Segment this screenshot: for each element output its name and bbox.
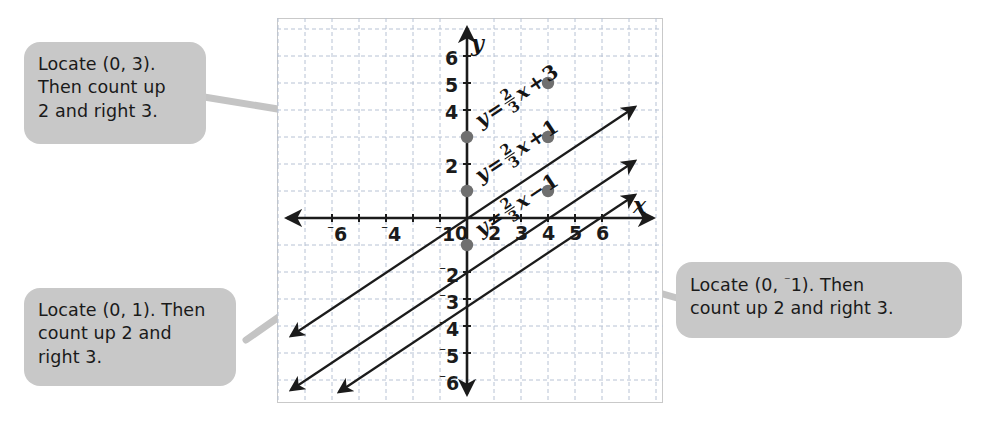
callout-right-negative-sign: ⁻ xyxy=(784,273,791,288)
y-tick-5: 5 xyxy=(445,76,458,95)
x-axis-label: x xyxy=(633,194,646,216)
callout-right-line1: Locate (0, ⁻1). Then xyxy=(690,273,948,297)
callout-locate-0-neg1: Locate (0, ⁻1). Then count up 2 and righ… xyxy=(676,262,962,338)
x-tick-5: 5 xyxy=(569,224,582,243)
callout-top-left-line2: Then count up xyxy=(38,76,192,99)
callout-right-line1-b: 1). Then xyxy=(791,275,865,295)
y-tick-neg6: ⁻6 xyxy=(439,373,459,393)
graph-lines xyxy=(277,18,663,403)
y-tick-neg3: ⁻3 xyxy=(439,292,459,312)
callout-right-line2: count up 2 and right 3. xyxy=(690,297,948,320)
point-0-1 xyxy=(461,185,473,197)
x-tick-4: 4 xyxy=(542,224,555,243)
y-tick-neg4: ⁻4 xyxy=(439,319,459,339)
x-tick-neg4: ⁻4 xyxy=(381,224,401,244)
callout-locate-0-3: Locate (0, 3). Then count up 2 and right… xyxy=(24,42,206,144)
y-tick-neg5: ⁻5 xyxy=(439,346,459,366)
x-tick-neg6: ⁻6 xyxy=(327,224,347,244)
x-tick-6: 6 xyxy=(596,224,609,243)
callout-right-line1-a: Locate (0, xyxy=(690,275,784,295)
callout-top-left-line3: 2 and right 3. xyxy=(38,100,192,123)
y-tick-2: 2 xyxy=(445,157,458,176)
x-tick-neg1: ⁻1 xyxy=(435,224,455,244)
y-tick-neg2: ⁻2 xyxy=(439,265,459,285)
x-tick-0: 0 xyxy=(455,224,468,243)
coordinate-plane: y x 6 5 4 2 ⁻2 ⁻3 ⁻4 ⁻5 ⁻6 ⁻6 ⁻4 ⁻1 0 2 … xyxy=(277,18,663,403)
callout-top-left-line1: Locate (0, 3). xyxy=(38,53,192,76)
x-tick-3: 3 xyxy=(515,224,528,243)
y-tick-4: 4 xyxy=(445,103,458,122)
y-axis-label: y xyxy=(471,32,484,54)
point-0-3 xyxy=(461,131,473,143)
callout-bottom-left-line3: right 3. xyxy=(38,346,222,369)
callout-bottom-left-line1: Locate (0, 1). Then xyxy=(38,299,222,322)
callout-bottom-left-line2: count up 2 and xyxy=(38,322,222,345)
y-tick-6: 6 xyxy=(445,49,458,68)
callout-locate-0-1: Locate (0, 1). Then count up 2 and right… xyxy=(24,288,236,386)
